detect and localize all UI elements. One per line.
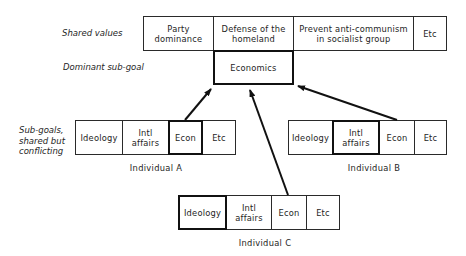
arrows-layer xyxy=(0,0,466,256)
arrow-c-to-economics xyxy=(250,90,288,195)
arrow-a-to-economics xyxy=(185,89,211,120)
arrow-b-to-economics xyxy=(298,86,397,120)
